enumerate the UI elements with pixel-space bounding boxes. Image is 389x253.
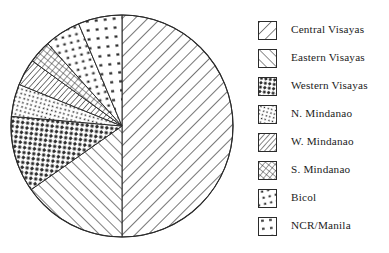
legend-item: Bicol bbox=[258, 184, 389, 212]
legend-item: S. Mindanao bbox=[258, 156, 389, 184]
legend: Central Visayas bbox=[258, 16, 389, 240]
legend-item: N. Mindanao bbox=[258, 100, 389, 128]
legend-swatch-diagonal-hatch-left bbox=[258, 49, 277, 68]
legend-item: Western Visayas bbox=[258, 72, 389, 100]
legend-swatch-sparse-dots bbox=[258, 217, 277, 236]
legend-item-label: Bicol bbox=[291, 192, 316, 203]
legend-item-label: W. Mindanao bbox=[291, 136, 354, 147]
legend-item: Eastern Visayas bbox=[258, 44, 389, 72]
legend-item-label: Central Visayas bbox=[291, 24, 364, 35]
legend-item-label: Western Visayas bbox=[291, 80, 368, 91]
pie-chart-figure: Central Visayas bbox=[0, 0, 389, 253]
legend-item-label: NCR/Manila bbox=[291, 220, 351, 231]
legend-item-label: S. Mindanao bbox=[291, 164, 350, 175]
legend-swatch-cross-hatch bbox=[258, 161, 277, 180]
legend-swatch-grid-dots bbox=[258, 189, 277, 208]
legend-item: W. Mindanao bbox=[258, 128, 389, 156]
legend-item-label: N. Mindanao bbox=[291, 108, 352, 119]
legend-swatch-fine-dots bbox=[258, 105, 277, 124]
legend-swatch-diagonal-hatch-right bbox=[258, 21, 277, 40]
pie-slices bbox=[11, 15, 233, 237]
legend-item: Central Visayas bbox=[258, 16, 389, 44]
pie-chart bbox=[0, 0, 250, 253]
legend-item: NCR/Manila bbox=[258, 212, 389, 240]
legend-item-label: Eastern Visayas bbox=[291, 52, 365, 63]
pie-slice-central-visayas bbox=[122, 15, 233, 237]
legend-swatch-coarse-dots bbox=[258, 77, 277, 96]
legend-swatch-dense-hatch bbox=[258, 133, 277, 152]
